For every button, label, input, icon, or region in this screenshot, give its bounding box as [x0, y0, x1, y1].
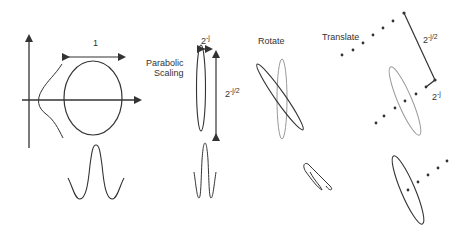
narrow-waveform — [194, 143, 216, 198]
panel-original — [22, 36, 140, 199]
panel-scaling — [194, 45, 216, 198]
width-label: 1 — [93, 38, 98, 48]
thin-ellipse — [197, 45, 206, 131]
scaling-title-line2: Scaling — [146, 68, 184, 78]
height-label: 2-j/2 — [225, 86, 240, 99]
rotated-waveform — [304, 163, 332, 190]
rotate-title: Rotate — [258, 36, 285, 46]
translate-title: Translate — [322, 32, 359, 42]
scaling-title-line1: Parabolic — [146, 58, 184, 68]
scaling-title: Parabolic Scaling — [146, 58, 184, 78]
circle-support — [64, 61, 122, 135]
long-dimension-line — [404, 13, 435, 80]
rotated-ellipse — [253, 61, 307, 132]
profile-wave — [39, 64, 63, 138]
short-dimension-label: 2-j — [432, 89, 441, 102]
waveform — [68, 145, 124, 199]
panel-rotate — [253, 59, 332, 190]
shearlet-diagram — [0, 0, 466, 238]
long-dimension-label: 2-j/2 — [423, 32, 438, 45]
short-dimension-line — [426, 80, 435, 87]
narrow-width-label: 2-j — [201, 33, 210, 46]
unrotated-ellipse — [277, 59, 287, 139]
